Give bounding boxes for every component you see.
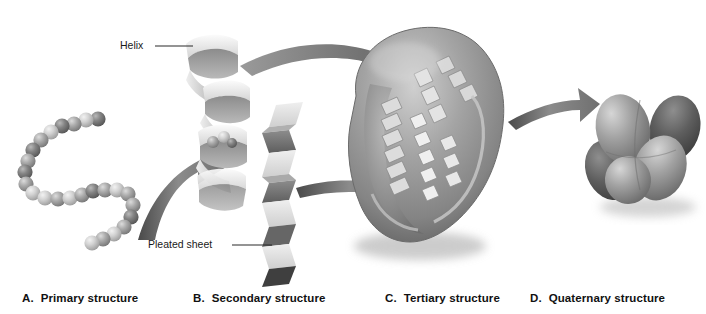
caption-text-a: Primary structure (41, 292, 139, 304)
secondary-structure-alpha-helix (186, 35, 250, 211)
caption-secondary-structure: B.Secondary structure (193, 292, 325, 304)
caption-letter-d: D. (530, 292, 542, 304)
caption-text-b: Secondary structure (212, 292, 326, 304)
secondary-structure-pleated-sheet (262, 102, 303, 287)
callout-label-pleated-sheet: Pleated sheet (148, 238, 212, 250)
caption-primary-structure: A.Primary structure (22, 292, 138, 304)
callout-label-helix: Helix (120, 39, 143, 51)
tertiary-structure-globule (348, 27, 503, 260)
caption-letter-b: B. (193, 292, 205, 304)
caption-text-d: Quaternary structure (549, 292, 665, 304)
protein-structure-figure: Helix Pleated sheet A.Primary structure … (0, 0, 706, 314)
caption-text-c: Tertiary structure (404, 292, 500, 304)
caption-letter-a: A. (22, 292, 34, 304)
caption-tertiary-structure: C.Tertiary structure (385, 292, 500, 304)
figure-artwork (0, 0, 706, 314)
caption-letter-c: C. (385, 292, 397, 304)
arrow-tertiary-to-quaternary (508, 88, 600, 130)
caption-quaternary-structure: D.Quaternary structure (530, 292, 665, 304)
primary-structure-bead-chain (17, 111, 140, 250)
quaternary-structure-subunit-cluster (576, 89, 706, 217)
